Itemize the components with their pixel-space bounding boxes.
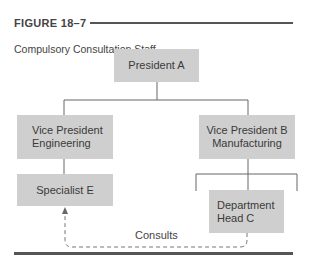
node-vp-engineering: Vice President Engineering [17, 115, 113, 159]
node-label: Specialist E [36, 184, 93, 197]
node-label-line2: Engineering [32, 137, 103, 150]
node-label-line1: Vice President [32, 124, 103, 137]
node-label-line2: Manufacturing [206, 137, 287, 150]
node-specialist-e: Specialist E [17, 174, 113, 206]
consults-label: Consults [135, 229, 178, 241]
node-president-a: President A [114, 49, 199, 82]
node-label: President A [128, 59, 184, 72]
node-label-line2: Head C [217, 212, 274, 225]
node-vp-manufacturing: Vice President B Manufacturing [199, 115, 295, 159]
node-label-line1: Vice President B [206, 124, 287, 137]
figure-bottom-rule [14, 252, 293, 255]
node-label-line1: Department [217, 199, 274, 212]
node-department-head-c: Department Head C [209, 190, 284, 233]
